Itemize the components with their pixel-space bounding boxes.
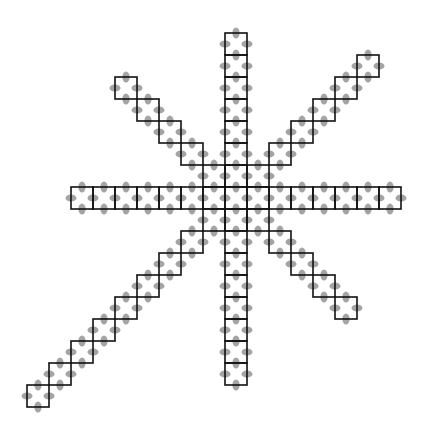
- star-lattice-diagram: [0, 0, 433, 445]
- background: [0, 0, 433, 445]
